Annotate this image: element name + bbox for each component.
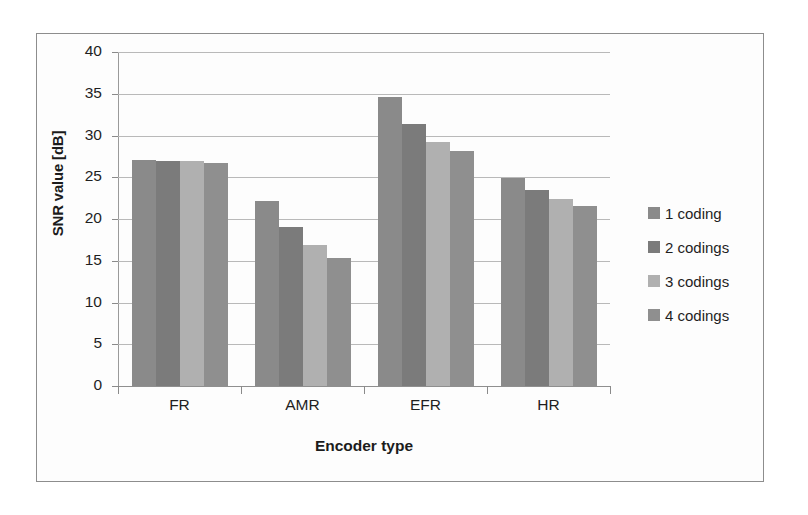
bar	[156, 161, 180, 386]
bar-slot	[501, 52, 525, 386]
y-tick-label: 5	[56, 334, 102, 352]
bar-chart-figure: SNR value [dB] 4035302520151050 FRAMREFR…	[0, 0, 808, 515]
legend-item-2: 2 codings	[648, 230, 778, 264]
bar	[549, 199, 573, 386]
bar	[450, 151, 474, 386]
bar-slot	[156, 52, 180, 386]
bar	[303, 245, 327, 386]
bar-slot	[255, 52, 279, 386]
bar-slot	[549, 52, 573, 386]
x-tick-label-amr: AMR	[241, 396, 364, 414]
bar	[501, 178, 525, 386]
y-tick-label: 40	[56, 42, 102, 60]
bar	[573, 206, 597, 386]
bar	[378, 97, 402, 386]
bar	[525, 190, 549, 386]
legend-swatch-icon	[648, 309, 660, 321]
bar-groups	[118, 52, 610, 386]
bar-slot	[402, 52, 426, 386]
legend-swatch-icon	[648, 207, 660, 219]
x-tick-mark	[487, 386, 488, 394]
bar	[402, 124, 426, 386]
bar	[132, 160, 156, 386]
bar-group-hr	[487, 52, 610, 386]
y-tick-label: 35	[56, 84, 102, 102]
bar-slot	[573, 52, 597, 386]
bar	[180, 161, 204, 386]
y-tick-label: 10	[56, 293, 102, 311]
legend-label: 2 codings	[665, 239, 729, 256]
bar-slot	[180, 52, 204, 386]
x-tick-mark	[610, 386, 611, 394]
legend-swatch-icon	[648, 275, 660, 287]
y-tick-label: 0	[56, 376, 102, 394]
legend-swatch-icon	[648, 241, 660, 253]
x-tick-mark	[364, 386, 365, 394]
bar-group-efr	[364, 52, 487, 386]
bar-slot	[426, 52, 450, 386]
legend: 1 coding2 codings3 codings4 codings	[648, 196, 778, 332]
bar	[255, 201, 279, 386]
x-axis-title: Encoder type	[118, 437, 610, 455]
legend-label: 4 codings	[665, 307, 729, 324]
bar	[426, 142, 450, 386]
bar-group-fr	[118, 52, 241, 386]
y-tick-label: 20	[56, 209, 102, 227]
bar-slot	[525, 52, 549, 386]
x-tick-label-fr: FR	[118, 396, 241, 414]
bar-slot	[378, 52, 402, 386]
y-tick-label: 30	[56, 126, 102, 144]
bar	[327, 258, 351, 386]
bar-slot	[279, 52, 303, 386]
x-tick-label-hr: HR	[487, 396, 610, 414]
legend-label: 3 codings	[665, 273, 729, 290]
legend-item-4: 4 codings	[648, 298, 778, 332]
plot-area	[118, 52, 610, 386]
legend-item-1: 1 coding	[648, 196, 778, 230]
bar-slot	[132, 52, 156, 386]
x-tick-label-efr: EFR	[364, 396, 487, 414]
x-axis-tick-labels: FRAMREFRHR	[118, 396, 610, 414]
legend-label: 1 coding	[665, 205, 722, 222]
y-tick-label: 15	[56, 251, 102, 269]
x-tick-mark	[241, 386, 242, 394]
bar-slot	[204, 52, 228, 386]
bar-slot	[450, 52, 474, 386]
bar	[204, 163, 228, 386]
y-tick-label: 25	[56, 167, 102, 185]
bar-slot	[327, 52, 351, 386]
x-tick-mark	[118, 386, 119, 394]
legend-item-3: 3 codings	[648, 264, 778, 298]
bar-slot	[303, 52, 327, 386]
bar	[279, 227, 303, 386]
bar-group-amr	[241, 52, 364, 386]
